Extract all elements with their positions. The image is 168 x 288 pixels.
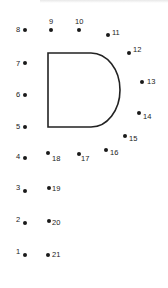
dot-number-label: 5 — [16, 123, 20, 131]
dot-number-label: 14 — [143, 113, 151, 121]
dot-point — [106, 33, 110, 37]
dot-number-label: 7 — [16, 60, 20, 68]
dot-number-label: 10 — [75, 18, 83, 26]
letter-d-outline — [0, 0, 168, 288]
dot-number-label: 8 — [16, 26, 20, 34]
dot-point — [46, 151, 50, 155]
dot-number-label: 15 — [129, 135, 137, 143]
dot-number-label: 21 — [52, 251, 60, 259]
dot-point — [47, 219, 51, 223]
dot-point — [140, 80, 144, 84]
dot-point — [46, 253, 50, 257]
dot-point — [23, 189, 27, 193]
dot-point — [47, 186, 51, 190]
dot-point — [137, 111, 141, 115]
dot-number-label: 18 — [52, 155, 60, 163]
dot-point — [23, 28, 27, 32]
dot-point — [104, 148, 108, 152]
dot-point — [49, 28, 53, 32]
dot-number-label: 19 — [52, 185, 60, 193]
dot-point — [23, 93, 27, 97]
dot-number-label: 9 — [49, 18, 53, 26]
dot-point — [23, 125, 27, 129]
dot-number-label: 6 — [16, 91, 20, 99]
dot-point — [23, 156, 27, 160]
dot-number-label: 2 — [16, 216, 20, 224]
dot-number-label: 3 — [16, 184, 20, 192]
dot-number-label: 13 — [147, 78, 155, 86]
dot-number-label: 11 — [112, 29, 120, 37]
dot-number-label: 1 — [16, 248, 20, 256]
dot-point — [123, 134, 127, 138]
dot-point — [77, 28, 81, 32]
dot-number-label: 16 — [110, 149, 118, 157]
dot-point — [23, 221, 27, 225]
dot-number-label: 17 — [81, 155, 89, 163]
dot-number-label: 20 — [52, 219, 60, 227]
dot-point — [23, 253, 27, 257]
dot-number-label: 12 — [133, 46, 141, 54]
dot-point — [127, 51, 131, 55]
dot-number-label: 4 — [16, 153, 20, 161]
dot-point — [23, 61, 27, 65]
